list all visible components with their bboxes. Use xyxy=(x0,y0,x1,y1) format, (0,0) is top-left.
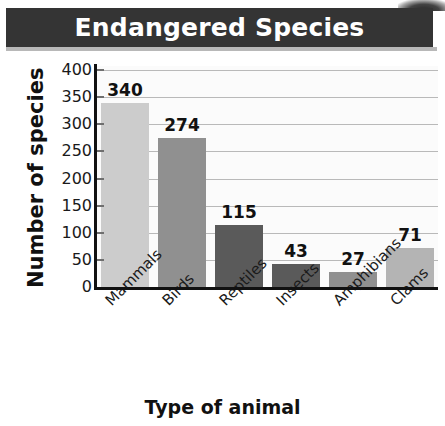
y-axis-line xyxy=(94,64,97,289)
y-axis-tick-mark xyxy=(97,69,104,71)
y-axis-tick-label: 100 xyxy=(56,225,92,241)
y-axis-tick-mark xyxy=(97,232,104,234)
page-title: Endangered Species xyxy=(75,15,365,40)
x-axis-line xyxy=(94,287,438,290)
x-axis-title: Type of animal xyxy=(0,396,445,418)
y-axis-title: Number of species xyxy=(24,88,48,288)
y-axis-tick-mark xyxy=(97,205,104,207)
y-axis-tick-label: 50 xyxy=(56,252,92,268)
y-axis-tick-mark xyxy=(97,259,104,261)
y-axis-tick-label: 350 xyxy=(56,89,92,105)
y-axis-tick-mark xyxy=(97,96,104,98)
y-axis-tick-label: 300 xyxy=(56,116,92,132)
chart-figure: Endangered Species 340274115432771 05010… xyxy=(0,0,445,426)
y-axis-tick-mark xyxy=(97,123,104,125)
y-axis-tick-label: 250 xyxy=(56,143,92,159)
y-axis-tick-mark xyxy=(97,178,104,180)
y-axis-tick-label: 400 xyxy=(56,62,92,78)
y-axis-tick-label: 0 xyxy=(56,279,92,295)
bar-value-label: 115 xyxy=(203,204,275,221)
y-axis-tick-label: 200 xyxy=(56,171,92,187)
gridline xyxy=(97,70,438,71)
y-axis-tick-labels: 050100150200250300350400 xyxy=(52,0,92,426)
y-axis-tick-mark xyxy=(97,150,104,152)
bar-birds xyxy=(158,138,206,287)
bar-value-label: 274 xyxy=(146,117,218,134)
y-axis-tick-label: 150 xyxy=(56,198,92,214)
